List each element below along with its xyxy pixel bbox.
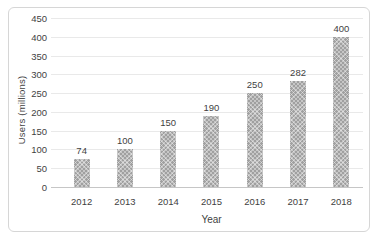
y-tick-label-250: 250: [31, 88, 47, 99]
bars-row: 74100150190250282400: [51, 18, 363, 187]
bar-slot-2014: 150: [147, 18, 190, 187]
x-tick-label-2016: 2016: [233, 196, 276, 207]
bar-value-label-2017: 282: [290, 67, 306, 78]
x-tick-label-2013: 2013: [103, 196, 146, 207]
bar-2014: [160, 131, 176, 187]
y-tick-label-400: 400: [31, 31, 47, 42]
y-tick-label-50: 50: [36, 163, 47, 174]
bar-value-label-2013: 100: [117, 135, 133, 146]
x-axis-title: Year: [51, 214, 363, 225]
y-tick-label-150: 150: [31, 125, 47, 136]
chart-frame: Users (millions) 05010015020025030035040…: [8, 7, 370, 232]
y-tick-label-100: 100: [31, 144, 47, 155]
y-tick-label-0: 0: [42, 182, 47, 193]
x-tick-label-2015: 2015: [190, 196, 233, 207]
bar-2017: [290, 81, 306, 187]
x-tick-label-2014: 2014: [147, 196, 190, 207]
x-tick-label-2012: 2012: [60, 196, 103, 207]
y-tick-label-350: 350: [31, 50, 47, 61]
bar-value-label-2014: 150: [160, 117, 176, 128]
bar-2013: [117, 149, 133, 187]
bar-2016: [247, 93, 263, 187]
bar-slot-2013: 100: [103, 18, 146, 187]
x-axis-tick-labels: 2012201320142015201620172018: [51, 196, 363, 207]
bar-2015: [203, 116, 219, 187]
bar-slot-2012: 74: [60, 18, 103, 187]
y-tick-label-450: 450: [31, 13, 47, 24]
bar-slot-2016: 250: [233, 18, 276, 187]
bar-value-label-2012: 74: [76, 145, 87, 156]
bar-slot-2018: 400: [320, 18, 363, 187]
bar-value-label-2016: 250: [247, 79, 263, 90]
y-tick-label-200: 200: [31, 106, 47, 117]
y-tick-label-300: 300: [31, 69, 47, 80]
bar-2012: [74, 159, 90, 187]
bar-value-label-2015: 190: [204, 102, 220, 113]
bar-value-label-2018: 400: [333, 23, 349, 34]
x-tick-label-2017: 2017: [276, 196, 319, 207]
bar-2018: [333, 37, 349, 187]
plot-area: 74100150190250282400 2012201320142015201…: [51, 18, 363, 188]
y-axis-tick-labels: 050100150200250300350400450: [9, 8, 47, 231]
bar-slot-2015: 190: [190, 18, 233, 187]
bar-slot-2017: 282: [276, 18, 319, 187]
x-tick-label-2018: 2018: [320, 196, 363, 207]
